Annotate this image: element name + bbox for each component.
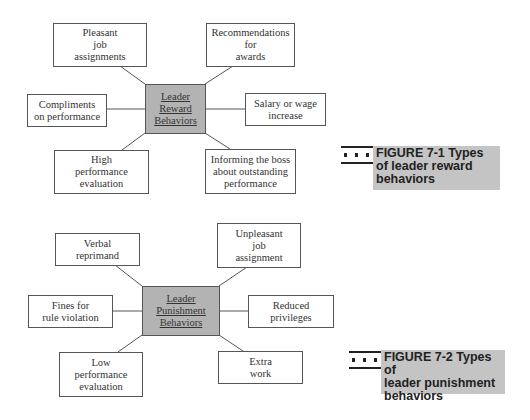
center-line: Punishment (156, 305, 206, 317)
node-verbal-reprimand: Verbal reprimand (55, 233, 140, 266)
node-line: Recommendations (211, 27, 289, 39)
center-line: Reward (159, 103, 192, 115)
node-pleasant-job-assignments: Pleasant job assignments (53, 23, 147, 67)
center-line: Leader (166, 293, 195, 305)
node-line: assignments (74, 51, 125, 63)
node-line: Compliments (39, 99, 96, 111)
node-line: High (91, 154, 112, 166)
node-line: performance (224, 178, 277, 190)
node-line: Fines for (52, 300, 90, 312)
caption-line: FIGURE 7-2 Types of (384, 351, 501, 377)
node-compliments-on-performance: Compliments on performance (27, 94, 107, 127)
node-line: increase (268, 110, 302, 122)
node-line: reprimand (76, 250, 119, 262)
center-node-leader-punishment-behaviors: Leader Punishment Behaviors (142, 286, 220, 336)
node-line: performance (74, 369, 127, 381)
node-line: Unpleasant (235, 228, 282, 240)
node-extra-work: Extra work (218, 351, 303, 384)
figure-7-2-caption: FIGURE 7-2 Types of leader punishment be… (381, 350, 505, 394)
node-line: evaluation (80, 178, 124, 190)
node-line: evaluation (79, 381, 123, 393)
node-line: Salary or wage (254, 98, 317, 110)
node-line: job (252, 240, 265, 252)
node-line: Extra (249, 356, 272, 368)
node-line: about outstanding (213, 166, 288, 178)
node-recommendations-for-awards: Recommendations for awards (206, 23, 295, 67)
node-line: Informing the boss (211, 154, 290, 166)
node-line: rule violation (42, 312, 98, 324)
node-informing-the-boss: Informing the boss about outstanding per… (205, 149, 296, 194)
node-line: performance (75, 166, 128, 178)
node-line: assignment (235, 252, 282, 264)
caption-marker-icon (341, 146, 373, 166)
node-line: Verbal (84, 238, 111, 250)
node-low-performance-evaluation: Low performance evaluation (59, 352, 143, 397)
node-line: Reduced (273, 300, 310, 312)
node-fines-for-rule-violation: Fines for rule violation (28, 295, 113, 328)
node-line: privileges (270, 312, 311, 324)
center-line: Leader (161, 91, 190, 103)
node-line: job (93, 39, 106, 51)
node-line: for (244, 39, 256, 51)
caption-line: behaviors (376, 173, 496, 186)
node-line: Pleasant (83, 27, 118, 39)
node-line: work (250, 368, 272, 380)
caption-line: behaviors (384, 390, 501, 403)
node-salary-or-wage-increase: Salary or wage increase (245, 93, 326, 126)
node-line: awards (236, 51, 266, 63)
center-line: Behaviors (154, 115, 197, 127)
node-high-performance-evaluation: High performance evaluation (54, 150, 149, 194)
center-line: Behaviors (160, 317, 203, 329)
node-line: on performance (34, 111, 100, 123)
caption-marker-icon (349, 351, 381, 371)
figure-7-1-caption: FIGURE 7-1 Types of leader reward behavi… (373, 146, 500, 190)
node-line: Low (91, 357, 110, 369)
node-unpleasant-job-assignment: Unpleasant job assignment (217, 223, 301, 268)
center-node-leader-reward-behaviors: Leader Reward Behaviors (145, 84, 206, 134)
node-reduced-privileges: Reduced privileges (248, 295, 334, 328)
